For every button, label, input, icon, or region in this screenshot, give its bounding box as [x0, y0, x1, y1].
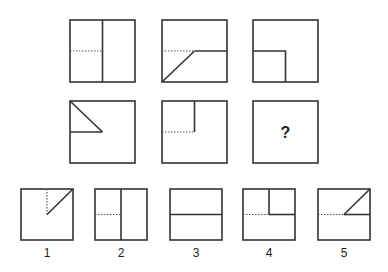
- grid-cell-r2c2: [162, 101, 227, 163]
- option-label: 5: [341, 246, 348, 260]
- option-label: 1: [44, 246, 51, 260]
- grid-cell-r1c2: [162, 20, 227, 82]
- option-3[interactable]: 3: [170, 189, 222, 260]
- option-4[interactable]: 4: [243, 189, 295, 260]
- grid-cell-r1c3: [253, 20, 318, 82]
- option-1[interactable]: 1: [21, 189, 73, 260]
- option-2[interactable]: 2: [95, 189, 147, 260]
- puzzle-diagram: ? 1 2 3 4 5: [0, 0, 388, 272]
- option-5[interactable]: 5: [318, 189, 370, 260]
- grid-cell-r1c1: [70, 20, 135, 82]
- option-label: 2: [118, 246, 125, 260]
- option-label: 4: [266, 246, 273, 260]
- option-label: 3: [193, 246, 200, 260]
- grid-cell-r2c1: [70, 101, 135, 163]
- grid-cell-r2c3-missing: ?: [253, 101, 318, 163]
- question-mark: ?: [281, 124, 291, 141]
